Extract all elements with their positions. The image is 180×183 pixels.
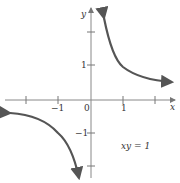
x-tick-label-neg1: −1 [51,103,64,113]
y-tick-label-1: 1 [81,60,87,70]
x-tick-label-1: 1 [121,103,127,113]
curve-positive-branch [104,18,172,82]
x-axis-label: x [170,102,175,112]
y-axis-label: y [80,9,87,19]
hyperbola-chart: x y 0 −1 1 1 −1 xy = 1 [0,0,180,183]
origin-label: 0 [84,103,90,113]
equation-label: xy = 1 [121,141,150,151]
y-tick-label-neg1: −1 [75,128,88,138]
plot-area: x y 0 −1 1 1 −1 xy = 1 [0,0,180,183]
curve-negative-branch [10,113,79,178]
